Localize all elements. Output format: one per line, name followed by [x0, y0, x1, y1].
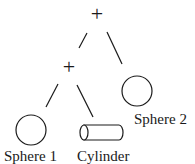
edge-union1-to-cylinder: [77, 85, 93, 117]
edge-root-to-sphere2: [107, 32, 122, 64]
root-union-operator: +: [91, 1, 103, 26]
csg-tree-diagram: + + Sphere 2 Sphere 1 Cylinder: [0, 0, 195, 164]
cylinder-icon: [80, 125, 123, 140]
sphere1-label: Sphere 1: [4, 148, 57, 164]
sphere1-icon: [16, 115, 46, 145]
sphere2-label: Sphere 2: [134, 111, 187, 127]
edge-union1-to-sphere1: [46, 84, 58, 107]
sphere2-icon: [122, 76, 152, 106]
edge-root-to-union1: [79, 33, 87, 48]
cylinder-label: Cylinder: [77, 148, 130, 164]
union1-operator: +: [63, 54, 75, 79]
